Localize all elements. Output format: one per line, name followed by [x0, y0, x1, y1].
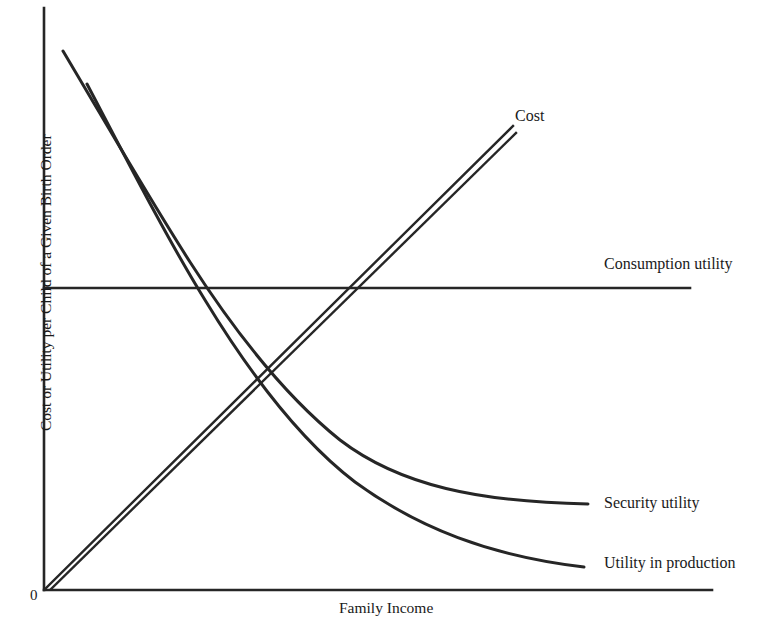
cost-line-lower — [51, 133, 516, 589]
series-label-cost: Cost — [515, 108, 544, 124]
series-label-utility-in-production: Utility in production — [604, 555, 736, 571]
series-label-consumption-utility: Consumption utility — [604, 256, 732, 272]
chart-plot-area — [0, 0, 762, 626]
y-axis-label: Cost or Utility per Child of a Given Bir… — [37, 171, 55, 431]
cost-line-upper — [46, 126, 513, 588]
chart-figure: Cost or Utility per Child of a Given Bir… — [0, 0, 762, 626]
series-security-utility-curve — [63, 51, 588, 504]
origin-label: 0 — [30, 588, 38, 603]
series-label-security-utility: Security utility — [604, 495, 700, 511]
x-axis-label: Family Income — [339, 600, 433, 616]
series-utility-in-production-curve — [87, 84, 584, 567]
series-cost-lines — [46, 126, 516, 589]
